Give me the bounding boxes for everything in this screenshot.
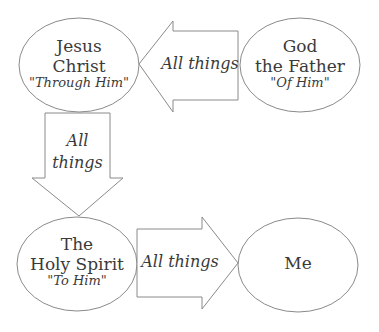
label-jesus-christ: Jesus Christ "Through Him" xyxy=(19,37,139,91)
spirit-sub: "To Him" xyxy=(17,274,137,289)
label-god-the-father: God the Father "Of Him" xyxy=(240,37,360,91)
arrow-down-line2: things xyxy=(45,152,110,174)
label-me: Me xyxy=(238,254,358,274)
arrow-down-line1: All xyxy=(45,130,110,152)
father-sub: "Of Him" xyxy=(240,76,360,91)
arrow-left-label: All things xyxy=(160,55,240,73)
arrow-down-label: All things xyxy=(45,130,110,175)
father-line2: the Father xyxy=(240,57,360,77)
spirit-line1: The xyxy=(17,235,137,255)
jesus-line2: Christ xyxy=(19,57,139,77)
jesus-sub: "Through Him" xyxy=(19,76,139,91)
father-line1: God xyxy=(240,37,360,57)
jesus-line1: Jesus xyxy=(19,37,139,57)
arrow-right-label: All things xyxy=(140,253,220,271)
label-holy-spirit: The Holy Spirit "To Him" xyxy=(17,235,137,289)
spirit-line2: Holy Spirit xyxy=(17,255,137,275)
